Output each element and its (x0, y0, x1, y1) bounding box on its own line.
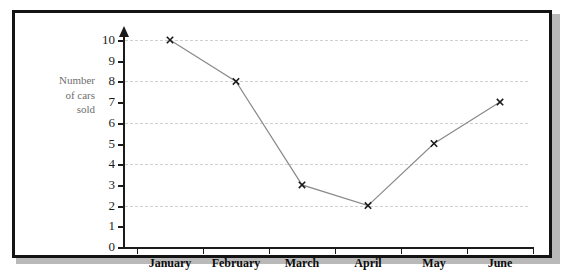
data-point-marker (233, 78, 239, 84)
chart-frame: Number of cars sold 012345678910 January… (12, 10, 552, 258)
chart-plate: Number of cars sold 012345678910 January… (15, 13, 549, 255)
data-point-marker (167, 37, 173, 43)
data-point-marker (299, 182, 305, 188)
chart-figure: Number of cars sold 012345678910 January… (0, 0, 570, 272)
data-point-marker (431, 140, 437, 146)
data-series-layer (15, 13, 555, 261)
series-line (170, 40, 500, 206)
data-point-marker (365, 202, 371, 208)
data-point-marker (497, 99, 503, 105)
